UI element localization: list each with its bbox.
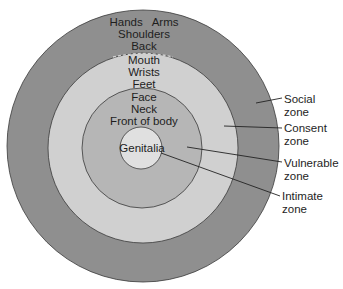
body-part-hands-arms: Hands Arms	[109, 16, 178, 28]
label-vulnerable-zone-line1: Vulnerable	[284, 157, 339, 169]
body-part-neck: Neck	[131, 103, 157, 115]
touch-zones-diagram: Hands Arms Shoulders Back Mouth Wrists F…	[0, 0, 343, 289]
body-part-mouth: Mouth	[128, 54, 160, 66]
body-part-front-of-body: Front of body	[110, 115, 178, 127]
label-consent-zone-line1: Consent	[284, 122, 328, 134]
label-social-zone-line1: Social	[284, 93, 315, 105]
body-part-back: Back	[131, 40, 157, 52]
body-part-feet: Feet	[132, 78, 156, 90]
label-social-zone-line2: zone	[284, 106, 309, 118]
body-part-genitalia: Genitalia	[119, 142, 165, 154]
label-intimate-zone-line1: Intimate	[282, 190, 323, 202]
label-consent-zone-line2: zone	[284, 135, 309, 147]
body-part-wrists: Wrists	[128, 66, 160, 78]
label-vulnerable-zone-line2: zone	[284, 170, 309, 182]
body-part-face: Face	[131, 91, 157, 103]
body-part-shoulders: Shoulders	[118, 28, 170, 40]
label-intimate-zone-line2: zone	[282, 203, 307, 215]
